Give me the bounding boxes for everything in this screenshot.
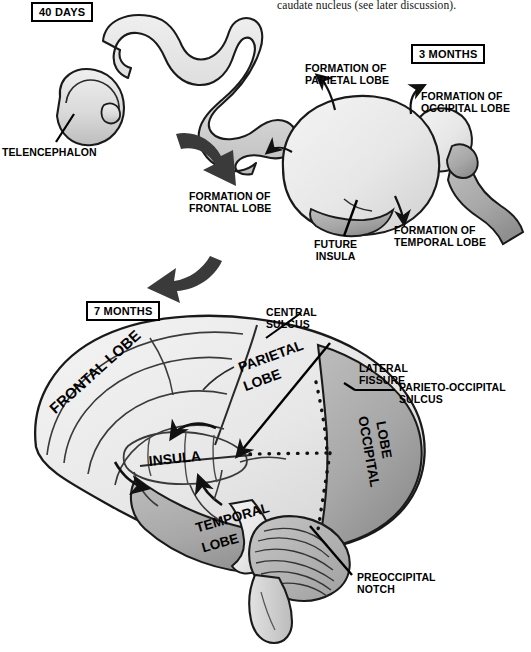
label-parieto-occipital-sulcus: PARIETO-OCCIPITAL SULCUS <box>399 381 506 405</box>
label-formation-temporal-lobe: FORMATION OF TEMPORAL LOBE <box>394 224 486 248</box>
body-text-fragment: caudate nucleus (see later discussion). <box>277 0 456 11</box>
stage-badge-40-days: 40 DAYS <box>31 2 93 22</box>
stage-badge-7-months: 7 MONTHS <box>86 301 160 321</box>
figure-canvas: caudate nucleus (see later discussion). … <box>0 0 531 652</box>
label-future-insula: FUTURE INSULA <box>314 238 357 262</box>
label-preoccipital-notch: PREOCCIPITAL NOTCH <box>357 571 436 595</box>
label-central-sulcus: CENTRAL SULCUS <box>266 306 317 330</box>
label-formation-frontal-lobe: FORMATION OF FRONTAL LOBE <box>189 190 271 214</box>
label-telencephalon: TELENCEPHALON <box>2 146 97 158</box>
label-formation-occipital-lobe: FORMATION OF OCCIPITAL LOBE <box>421 90 510 114</box>
label-formation-parietal-lobe: FORMATION OF PARIETAL LOBE <box>305 62 389 86</box>
stage-badge-3-months: 3 MONTHS <box>411 44 485 64</box>
transition-arrow-2 <box>147 256 222 303</box>
